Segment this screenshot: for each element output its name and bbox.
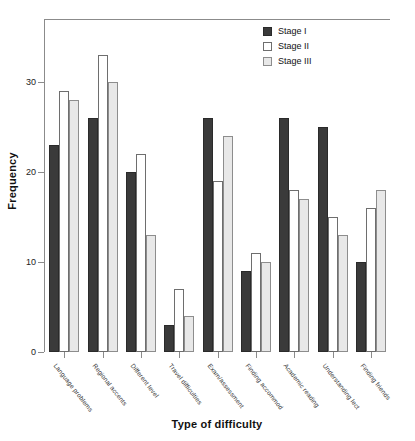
bar: [289, 190, 299, 352]
bar: [223, 136, 233, 352]
bar: [59, 91, 69, 352]
x-tick-mark: [333, 352, 334, 358]
bar: [49, 145, 59, 352]
x-tick-label: Different level: [129, 362, 160, 399]
legend-swatch-icon: [263, 57, 272, 66]
legend-item: Stage III: [263, 54, 312, 68]
bar: [174, 289, 184, 352]
bar: [356, 262, 366, 352]
bar: [328, 217, 338, 352]
x-tick-mark: [179, 352, 180, 358]
legend-label: Stage II: [278, 42, 309, 51]
y-tick-label: 20: [0, 167, 36, 177]
x-tick-mark: [294, 352, 295, 358]
bar: [108, 82, 118, 352]
legend-label: Stage I: [278, 27, 307, 36]
legend-swatch-icon: [263, 27, 272, 36]
y-tick-mark: [38, 172, 44, 173]
bar: [126, 172, 136, 352]
x-tick-label: Travel difficulties: [168, 362, 204, 406]
x-tick-label: Understanding lect: [321, 362, 361, 410]
y-axis-title: Frequency: [6, 136, 18, 226]
bar: [164, 325, 174, 352]
y-tick-mark: [38, 262, 44, 263]
x-tick-label: Finding friends: [359, 362, 392, 401]
bar: [279, 118, 289, 352]
x-tick-mark: [103, 352, 104, 358]
bar-chart: Frequency 0102030 Language problemsRegio…: [0, 0, 415, 441]
x-tick-label: Academic reading: [283, 362, 322, 409]
x-tick-label: Finding accommod: [244, 362, 284, 411]
bar: [184, 316, 194, 352]
y-tick-label: 0: [0, 347, 36, 357]
y-tick-label: 10: [0, 257, 36, 267]
bar: [376, 190, 386, 352]
legend-item: Stage I: [263, 24, 312, 38]
bar: [241, 271, 251, 352]
legend-label: Stage III: [278, 57, 312, 66]
x-tick-mark: [371, 352, 372, 358]
x-axis-title: Type of difficulty: [44, 418, 390, 430]
x-tick-mark: [256, 352, 257, 358]
x-tick-label: Exam/assessment: [206, 362, 245, 409]
bar: [203, 118, 213, 352]
bars-layer: [45, 19, 390, 352]
bar: [318, 127, 328, 352]
y-tick-label: 30: [0, 77, 36, 87]
y-tick-mark: [38, 82, 44, 83]
bar: [213, 181, 223, 352]
legend-swatch-icon: [263, 42, 272, 51]
bar: [251, 253, 261, 352]
bar: [69, 100, 79, 352]
bar: [136, 154, 146, 352]
legend-item: Stage II: [263, 39, 312, 53]
bar: [366, 208, 376, 352]
x-tick-label: Regional accents: [91, 362, 128, 407]
bar: [146, 235, 156, 352]
bar: [88, 118, 98, 352]
y-tick-mark: [38, 352, 44, 353]
bar: [261, 262, 271, 352]
x-tick-label: Language problems: [53, 362, 95, 413]
x-tick-mark: [141, 352, 142, 358]
bar: [299, 199, 309, 352]
x-tick-mark: [64, 352, 65, 358]
chart-legend: Stage IStage IIStage III: [263, 24, 312, 69]
x-tick-mark: [218, 352, 219, 358]
bar: [338, 235, 348, 352]
bar: [98, 55, 108, 352]
